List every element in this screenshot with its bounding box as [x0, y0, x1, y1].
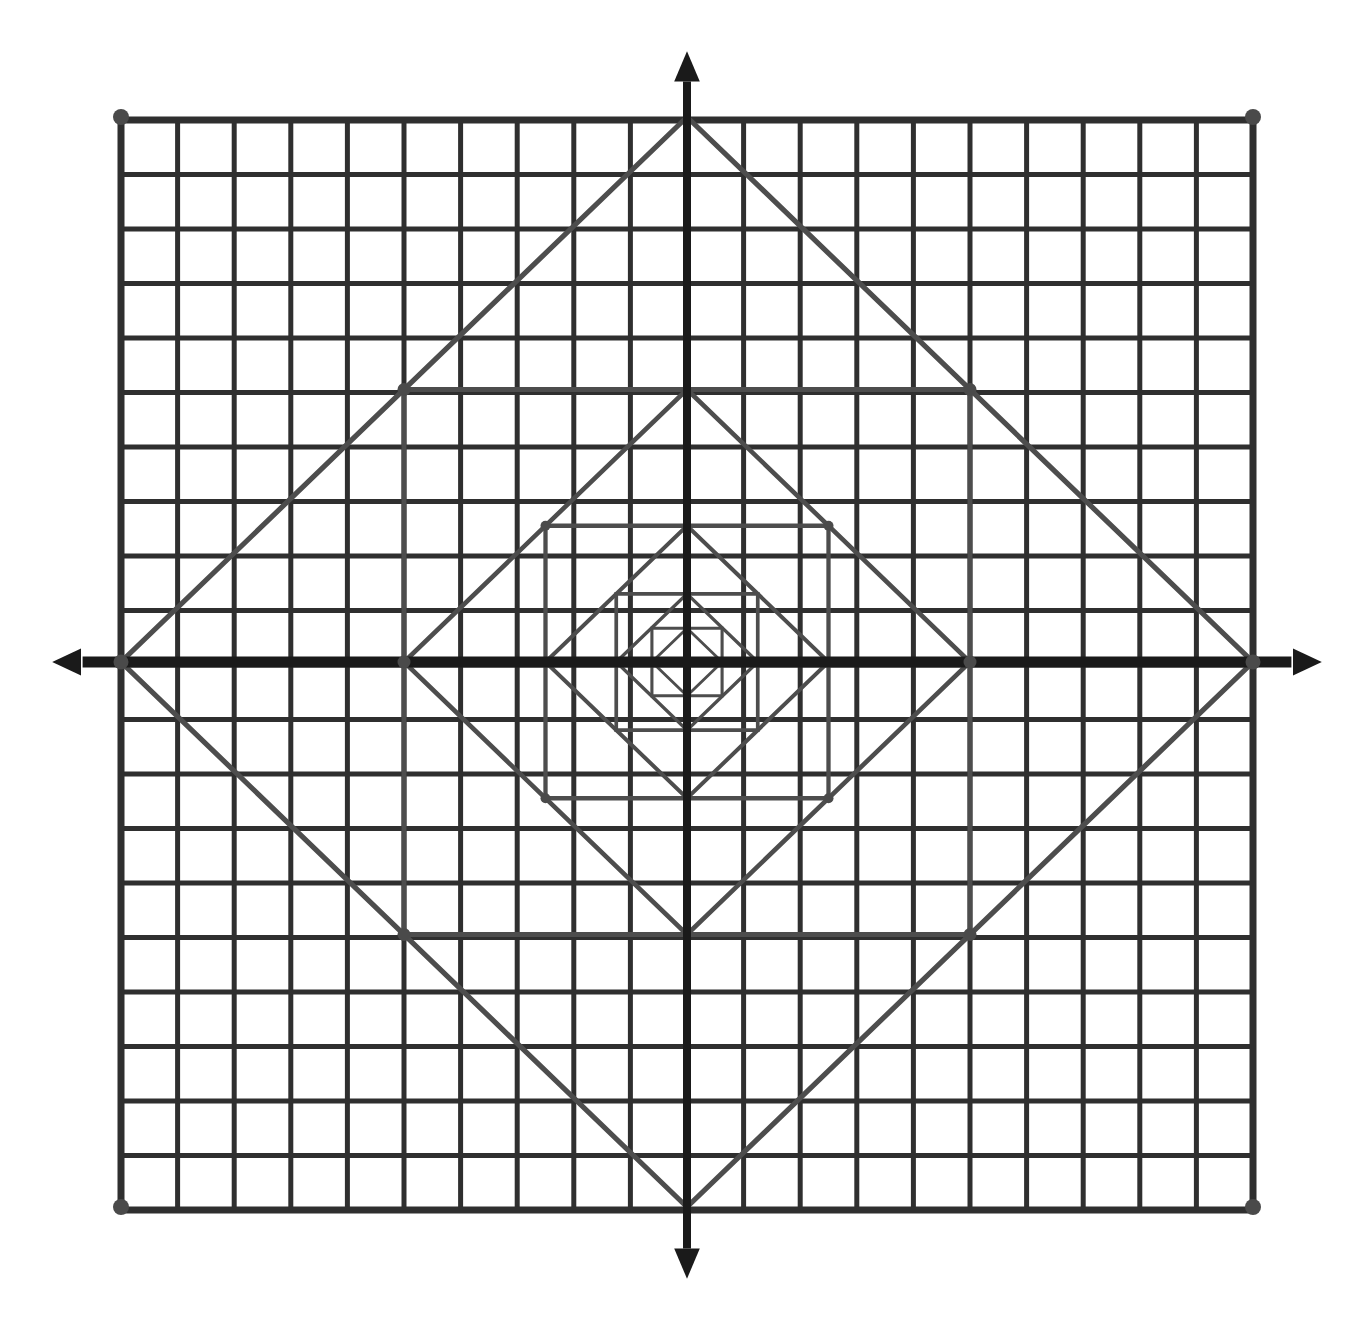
grid-corner-dot-top-right [1245, 109, 1261, 125]
vertex-dot-square4-top-left [541, 521, 551, 531]
grid-corner-dot-bottom-right [1245, 1199, 1261, 1215]
vertex-dot-square4-top-right [824, 521, 834, 531]
diagram-canvas [0, 0, 1365, 1342]
vertex-dot-square2-bottom-left [398, 928, 411, 941]
vertex-dot-square2-bottom-right [964, 928, 977, 941]
vertex-dot-square2-top-right [964, 383, 977, 396]
vertex-dot-diamond3-right [964, 656, 977, 669]
vertex-dot-square4-bottom-left [541, 793, 551, 803]
vertex-dot-square4-bottom-right [824, 793, 834, 803]
vertex-dot-square2-top-left [398, 383, 411, 396]
figure-background [0, 0, 1365, 1342]
geometry-figure [0, 0, 1365, 1342]
grid-corner-dot-bottom-left [113, 1199, 129, 1215]
vertex-dot-diamond1-right [1246, 655, 1261, 670]
grid-corner-dot-top-left [113, 109, 129, 125]
vertex-dot-diamond1-left [114, 655, 129, 670]
vertex-dot-diamond3-left [398, 656, 411, 669]
